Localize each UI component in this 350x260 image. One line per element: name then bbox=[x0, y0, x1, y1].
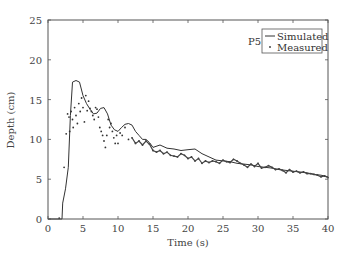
x-tick-label: 25 bbox=[217, 223, 230, 234]
measured-point bbox=[92, 115, 94, 117]
measured-point bbox=[124, 127, 126, 129]
measured-point bbox=[67, 113, 69, 115]
measured-point bbox=[112, 131, 114, 133]
measured-point bbox=[77, 123, 79, 125]
measured-point bbox=[81, 97, 83, 99]
measured-point bbox=[105, 147, 107, 149]
x-tick-label: 20 bbox=[182, 223, 195, 234]
x-tick-label: 30 bbox=[252, 223, 265, 234]
measured-point bbox=[75, 115, 77, 117]
x-tick-label: 40 bbox=[322, 223, 335, 234]
legend-simulated-label: Simulated bbox=[277, 31, 329, 42]
measured-point bbox=[109, 127, 111, 129]
x-axis-title: Time (s) bbox=[167, 237, 208, 248]
y-axis-title: Depth (cm) bbox=[5, 91, 16, 148]
measured-point bbox=[74, 107, 76, 109]
panel-annotation: P5 bbox=[248, 36, 261, 47]
measured-point bbox=[70, 111, 72, 113]
measured-point bbox=[103, 140, 105, 142]
legend-measured-label: Measured bbox=[277, 42, 328, 53]
measured-point bbox=[78, 103, 80, 105]
simulated-series bbox=[48, 81, 328, 220]
measured-point bbox=[82, 107, 84, 109]
legend: Simulated Measured bbox=[262, 29, 329, 53]
x-tick-label: 5 bbox=[80, 223, 86, 234]
x-tick-label: 10 bbox=[112, 223, 125, 234]
measured-point bbox=[117, 143, 119, 145]
x-tick-label: 0 bbox=[45, 223, 51, 234]
measured-point bbox=[84, 121, 86, 123]
measured-point bbox=[119, 132, 121, 134]
measured-point bbox=[96, 108, 98, 110]
measured-point bbox=[107, 119, 109, 121]
measured-point bbox=[72, 127, 74, 129]
measured-point bbox=[106, 135, 108, 137]
measured-point bbox=[68, 116, 70, 118]
measured-point bbox=[99, 127, 101, 129]
measured-point bbox=[79, 111, 81, 113]
y-tick-label: 15 bbox=[29, 95, 42, 106]
measured-dense-trace bbox=[132, 138, 328, 178]
measured-legend-dot bbox=[269, 46, 271, 48]
measured-point bbox=[102, 135, 104, 137]
y-tick-label: 5 bbox=[36, 174, 42, 185]
measured-point bbox=[121, 135, 123, 137]
depth-time-chart: 05101520253035400510152025 Time (s) Dept… bbox=[0, 0, 350, 260]
y-tick-label: 25 bbox=[29, 15, 42, 26]
measured-point bbox=[72, 119, 74, 121]
measured-point bbox=[114, 143, 116, 145]
measured-point bbox=[65, 133, 67, 135]
measured-point bbox=[86, 110, 88, 112]
measured-series bbox=[58, 95, 329, 219]
measured-point bbox=[100, 131, 102, 133]
measured-point bbox=[116, 135, 118, 137]
measured-point bbox=[69, 131, 71, 133]
measured-point bbox=[128, 139, 130, 141]
y-tick-label: 0 bbox=[36, 214, 42, 225]
measured-point bbox=[98, 116, 100, 118]
simulated-line bbox=[48, 81, 328, 220]
y-tick-label: 10 bbox=[29, 134, 42, 145]
measured-point bbox=[91, 111, 93, 113]
measured-point bbox=[110, 123, 112, 125]
measured-point bbox=[89, 108, 91, 110]
measured-point bbox=[63, 166, 65, 168]
measured-point bbox=[88, 100, 90, 102]
y-tick-label: 20 bbox=[29, 55, 42, 66]
measured-point bbox=[113, 137, 115, 139]
x-tick-label: 35 bbox=[287, 223, 300, 234]
measured-point bbox=[85, 95, 87, 97]
x-tick-label: 15 bbox=[147, 223, 160, 234]
measured-point bbox=[93, 119, 95, 121]
measured-point bbox=[95, 107, 97, 109]
